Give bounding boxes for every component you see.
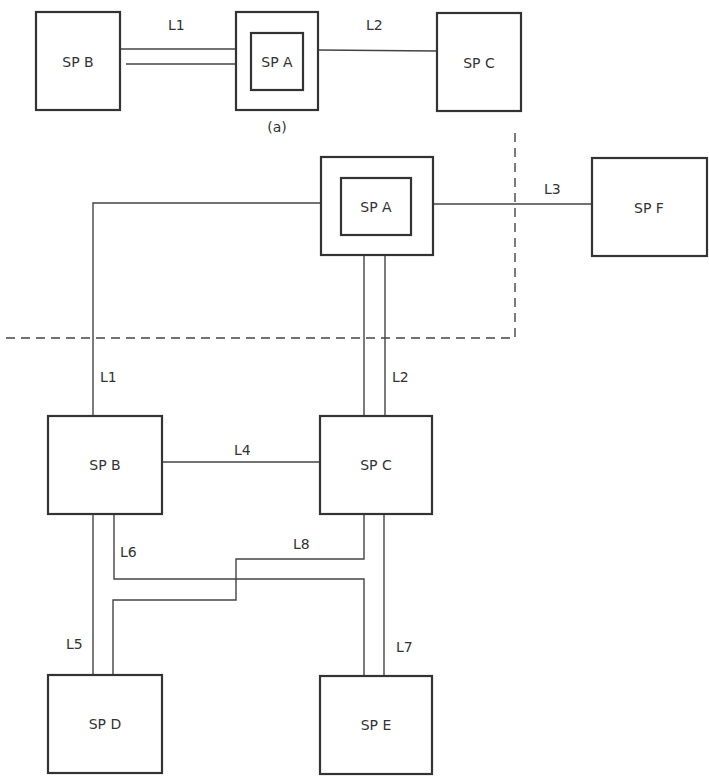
node-label: SP B: [89, 457, 120, 473]
link-l6: [114, 514, 364, 676]
link-label: L6: [120, 544, 137, 560]
node-label: SP A: [360, 199, 392, 215]
link-label: L1: [100, 369, 117, 385]
node-label: SP C: [360, 457, 392, 473]
caption: (a): [267, 119, 287, 135]
link-label: L8: [293, 536, 310, 552]
link-l8: [113, 514, 364, 675]
diagram-a: SP B SP A SP C L1 L2 (a): [36, 12, 521, 135]
link-l2-a: [318, 50, 437, 51]
link-label: L1: [168, 17, 185, 33]
link-label: L7: [396, 639, 413, 655]
domain-boundary: [5, 133, 515, 338]
link-label: L2: [366, 17, 383, 33]
link-label: L2: [392, 369, 409, 385]
node-label: SP A: [261, 54, 293, 70]
node-label: SP B: [62, 54, 93, 70]
link-label: L3: [544, 181, 561, 197]
node-label: SP F: [634, 200, 664, 216]
node-label: SP D: [89, 716, 122, 732]
link-l1: [93, 203, 321, 416]
diagram-b: SP A SP F SP B SP C SP D SP E L1 L2 L3 L…: [5, 133, 707, 774]
link-label: L5: [66, 636, 83, 652]
node-label: SP C: [463, 55, 495, 71]
link-label: L4: [234, 442, 251, 458]
node-label: SP E: [361, 717, 392, 733]
network-diagram: SP B SP A SP C L1 L2 (a) SP A: [0, 0, 709, 783]
